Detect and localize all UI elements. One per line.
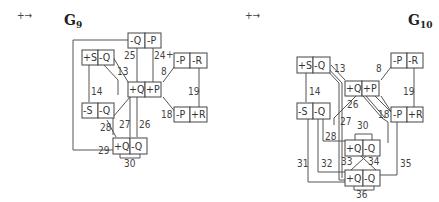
label-34: 34 bbox=[368, 156, 380, 167]
label-19: 19 bbox=[403, 86, 415, 97]
svg-text:-Q: -Q bbox=[130, 34, 141, 46]
label-13: 13 bbox=[334, 63, 345, 74]
label-28: 28 bbox=[325, 131, 337, 142]
svg-text:+Q: +Q bbox=[346, 82, 361, 94]
node-plus-s-minus-q: +S -Q bbox=[82, 50, 114, 65]
label-33: 33 bbox=[341, 156, 352, 167]
svg-text:-P: -P bbox=[393, 54, 402, 66]
label-24-marker: + bbox=[166, 49, 174, 60]
label-26: 26 bbox=[139, 119, 151, 130]
diagram-title-g9: G9 bbox=[64, 12, 82, 30]
label-36: 36 bbox=[356, 189, 368, 200]
node-minus-p-minus-r: -P -R bbox=[174, 53, 207, 68]
svg-text:+Q: +Q bbox=[129, 83, 144, 95]
label-26: 26 bbox=[347, 99, 359, 110]
plus-arrow-icon: +→ bbox=[17, 10, 33, 21]
label-14: 14 bbox=[91, 86, 103, 97]
label-29: 29 bbox=[98, 145, 110, 156]
node-center: +Q +P bbox=[345, 81, 379, 96]
node-minus-p-minus-r: -P -R bbox=[391, 53, 423, 68]
label-18: 18 bbox=[378, 109, 390, 120]
label-24: 24 bbox=[154, 50, 166, 61]
edge-sq-link bbox=[104, 65, 118, 95]
diagram-g9: +→ G9 -Q bbox=[17, 10, 207, 169]
label-25: 25 bbox=[124, 50, 135, 61]
label-28: 28 bbox=[100, 122, 112, 133]
diagram-g10: +→ G10 +S -Q bbox=[245, 10, 433, 200]
svg-text:-Q: -Q bbox=[131, 140, 142, 152]
node-bottom: +Q -Q bbox=[113, 138, 147, 154]
svg-text:+P: +P bbox=[146, 83, 160, 95]
node-center: +Q +P bbox=[128, 82, 161, 97]
svg-text:+P: +P bbox=[363, 82, 377, 94]
svg-text:+S: +S bbox=[83, 51, 97, 63]
svg-text:-Q: -Q bbox=[364, 142, 375, 154]
svg-text:-R: -R bbox=[192, 54, 202, 66]
svg-text:-P: -P bbox=[176, 108, 185, 120]
label-8: 8 bbox=[376, 63, 382, 74]
label-14: 14 bbox=[309, 86, 321, 97]
node-minus-p-plus-r: -P +R bbox=[391, 107, 423, 122]
node-minus-p-plus-r: -P +R bbox=[174, 107, 207, 122]
svg-text:-P: -P bbox=[147, 34, 156, 46]
svg-text:-S: -S bbox=[83, 104, 92, 116]
node-plus-s-minus-q: +S -Q bbox=[297, 57, 330, 73]
label-27: 27 bbox=[119, 119, 130, 130]
label-27: 27 bbox=[340, 116, 351, 127]
label-32: 32 bbox=[321, 158, 332, 169]
label-8: 8 bbox=[161, 66, 167, 77]
label-30: 30 bbox=[357, 120, 369, 131]
symbol-label: +→ bbox=[17, 10, 33, 21]
svg-text:+Q: +Q bbox=[114, 140, 129, 152]
svg-text:+Q: +Q bbox=[346, 142, 361, 154]
svg-text:-Q: -Q bbox=[314, 59, 325, 71]
label-13: 13 bbox=[117, 66, 128, 77]
diagram-canvas: +→ G9 -Q bbox=[0, 0, 439, 202]
label-31: 31 bbox=[297, 158, 308, 169]
diagram-title-g10: G10 bbox=[408, 12, 433, 30]
label-19: 19 bbox=[188, 86, 200, 97]
svg-text:+S: +S bbox=[298, 59, 312, 71]
svg-text:+R: +R bbox=[408, 108, 423, 120]
svg-text:-Q: -Q bbox=[99, 104, 110, 116]
node-mid: +Q -Q bbox=[345, 140, 380, 156]
svg-text:-R: -R bbox=[408, 54, 418, 66]
svg-text:-P: -P bbox=[176, 54, 185, 66]
svg-text:+R: +R bbox=[191, 108, 206, 120]
edge-8 bbox=[381, 67, 391, 80]
edge-30 bbox=[355, 134, 372, 140]
node-minus-s-minus-q: -S -Q bbox=[297, 103, 330, 119]
svg-text:-Q: -Q bbox=[314, 105, 325, 117]
label-18: 18 bbox=[161, 109, 173, 120]
svg-text:-P: -P bbox=[393, 108, 402, 120]
symbol-label: +→ bbox=[245, 10, 261, 21]
node-bottom: +Q -Q bbox=[345, 170, 380, 186]
svg-text:+Q: +Q bbox=[346, 172, 361, 184]
svg-text:-S: -S bbox=[298, 105, 307, 117]
label-35: 35 bbox=[400, 158, 411, 169]
node-top: -Q -P bbox=[128, 33, 161, 48]
label-30: 30 bbox=[124, 158, 136, 169]
node-minus-s-minus-q: -S -Q bbox=[82, 103, 114, 118]
svg-text:-Q: -Q bbox=[364, 172, 375, 184]
svg-text:-Q: -Q bbox=[99, 51, 110, 63]
